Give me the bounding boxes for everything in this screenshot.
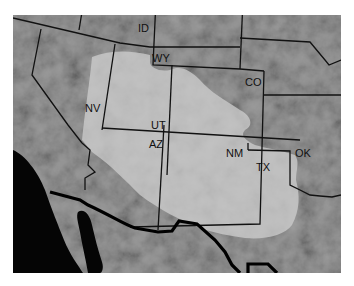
label-az: AZ xyxy=(149,138,163,150)
label-ut: UT xyxy=(151,119,166,131)
label-ok: OK xyxy=(295,147,312,159)
label-id: ID xyxy=(138,22,149,34)
map: ID WY CO NV UT AZ NM TX OK xyxy=(0,0,354,286)
label-wy: WY xyxy=(152,52,170,64)
label-co: CO xyxy=(245,76,262,88)
label-tx: TX xyxy=(256,161,271,173)
label-nm: NM xyxy=(226,147,243,159)
label-nv: NV xyxy=(85,102,101,114)
